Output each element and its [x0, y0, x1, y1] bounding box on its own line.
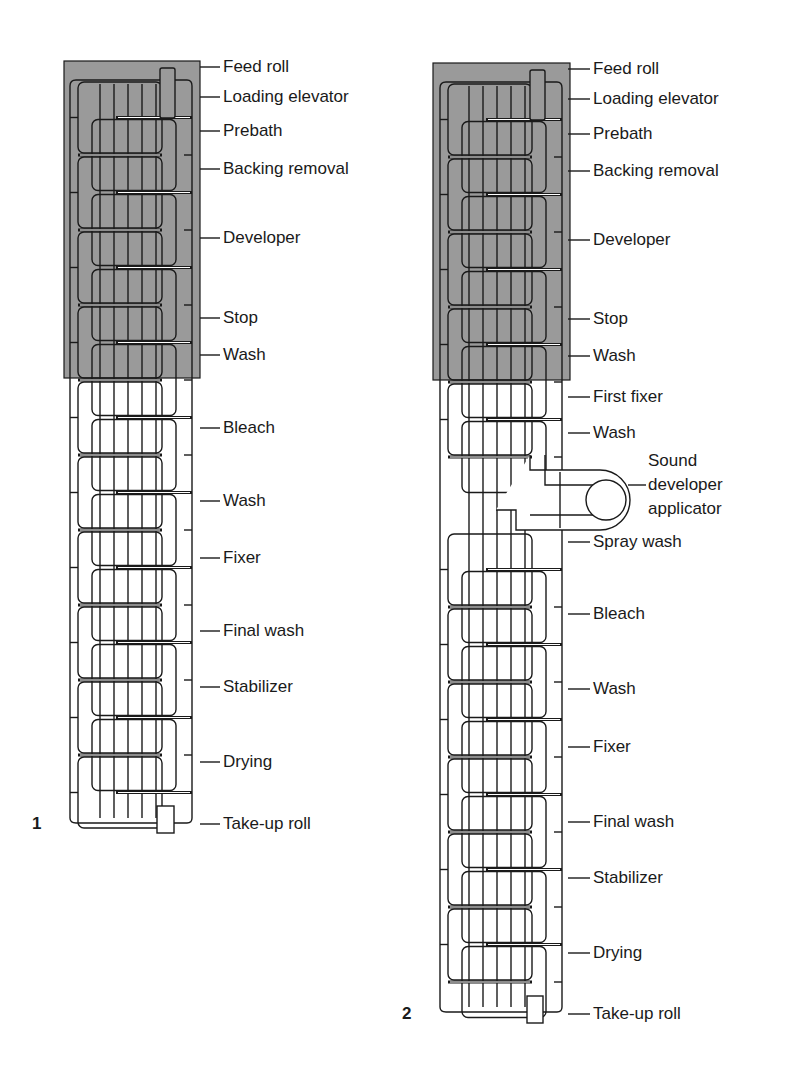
- stage-label: Drying: [223, 752, 272, 771]
- stage-label: Developer: [223, 228, 301, 247]
- stage-label: Loading elevator: [223, 87, 349, 106]
- stage-label: Spray wash: [593, 532, 682, 551]
- stage-label: Backing removal: [593, 161, 719, 180]
- stage-label: Fixer: [223, 548, 261, 567]
- stage-label: Fixer: [593, 737, 631, 756]
- sound-developer-applicator: [496, 455, 630, 530]
- darkroom-section: [64, 61, 200, 378]
- stage-label: Feed roll: [593, 59, 659, 78]
- stage-label: Bleach: [593, 604, 645, 623]
- stage-label: Sound: [648, 451, 697, 470]
- stage-label: Wash: [593, 423, 636, 442]
- stage-label: Wash: [593, 346, 636, 365]
- feed-roll-1: [160, 68, 175, 118]
- stage-label: Final wash: [223, 621, 304, 640]
- stage-label: Prebath: [223, 121, 283, 140]
- labels-2: Feed rollLoading elevatorPrebathBacking …: [568, 59, 723, 1023]
- stage-label: Take-up roll: [593, 1004, 681, 1023]
- stage-label: Take-up roll: [223, 814, 311, 833]
- feed-roll-2: [530, 70, 545, 120]
- figure-number-2: 2: [402, 1004, 411, 1023]
- stage-label: Final wash: [593, 812, 674, 831]
- diagram-2: Feed rollLoading elevatorPrebathBacking …: [402, 59, 723, 1023]
- stage-label: Drying: [593, 943, 642, 962]
- stage-label: applicator: [648, 499, 722, 518]
- stage-label: developer: [648, 475, 723, 494]
- stage-label: Loading elevator: [593, 89, 719, 108]
- stage-label: First fixer: [593, 387, 663, 406]
- stage-label: Stabilizer: [223, 677, 293, 696]
- stage-label: Wash: [223, 345, 266, 364]
- stage-label: Stabilizer: [593, 868, 663, 887]
- darkroom-section: [433, 63, 570, 380]
- stage-label: Prebath: [593, 124, 653, 143]
- film-processor-diagrams: Feed rollLoading elevatorPrebathBacking …: [0, 0, 812, 1077]
- stage-label: Backing removal: [223, 159, 349, 178]
- figure-number-1: 1: [32, 814, 41, 833]
- stage-label: Developer: [593, 230, 671, 249]
- stage-label: Wash: [593, 679, 636, 698]
- stage-label: Bleach: [223, 418, 275, 437]
- labels-1: Feed rollLoading elevatorPrebathBacking …: [200, 57, 349, 833]
- stage-label: Wash: [223, 491, 266, 510]
- stage-label: Stop: [223, 308, 258, 327]
- stage-label: Feed roll: [223, 57, 289, 76]
- take-up-roll-2: [527, 996, 543, 1023]
- stage-label: Stop: [593, 309, 628, 328]
- diagram-1: Feed rollLoading elevatorPrebathBacking …: [32, 57, 349, 833]
- take-up-roll-1: [157, 806, 174, 833]
